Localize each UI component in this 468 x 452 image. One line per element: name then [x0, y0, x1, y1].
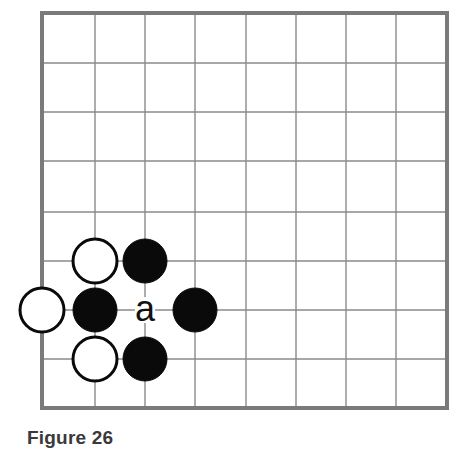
black-stone — [173, 288, 217, 332]
black-stone — [123, 239, 167, 283]
white-stone — [20, 288, 64, 332]
go-board-diagram: a — [0, 0, 468, 452]
point-label-a: a — [135, 288, 156, 329]
black-stone — [73, 288, 117, 332]
figure-caption: Figure 26 — [27, 427, 113, 449]
white-stone — [73, 239, 117, 283]
markers-layer: a — [132, 288, 158, 329]
white-stone — [73, 337, 117, 381]
black-stone — [123, 337, 167, 381]
